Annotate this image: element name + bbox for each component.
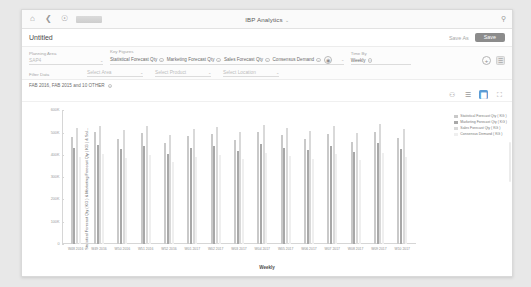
app-title-text: IBP Analytics xyxy=(245,16,282,23)
legend-label: Consensus Demand ( KG ) xyxy=(460,132,502,136)
remove-token-icon[interactable]: × xyxy=(159,58,164,63)
table-view-icon[interactable]: ☰ xyxy=(463,90,472,99)
scrollbar[interactable] xyxy=(509,142,511,182)
remove-token-icon[interactable]: × xyxy=(216,58,221,63)
key-figure-token[interactable]: Sales Forecast Qty× xyxy=(224,57,270,62)
key-figure-token[interactable]: Statistical Forecast Qty× xyxy=(110,57,164,62)
bar[interactable] xyxy=(172,162,174,244)
bar-group: W10 2017 xyxy=(391,110,414,244)
bar-chart-view-icon[interactable]: ▆ xyxy=(479,90,488,99)
planning-area-filter: Planning Area SAP4 ⌄ xyxy=(29,52,103,66)
planning-area-select[interactable]: SAP4 ⌄ xyxy=(29,57,103,65)
settings-gear-icon[interactable]: ◉ xyxy=(324,56,332,64)
chevron-down-icon: ⌄ xyxy=(202,70,211,75)
legend-item[interactable]: Marketing Forecast Qty ( KG ) xyxy=(454,120,507,124)
bar[interactable] xyxy=(382,153,384,244)
home-icon[interactable]: ⌂ xyxy=(28,15,37,24)
x-axis-tick: W10 2017 xyxy=(395,247,410,251)
bar[interactable] xyxy=(102,154,104,244)
y-axis-tick: 100K xyxy=(51,220,62,224)
legend-swatch xyxy=(454,121,458,125)
x-axis-tick: W03 2017 xyxy=(231,247,246,251)
y-axis-tick: 200K xyxy=(51,197,62,201)
x-axis-tick: W50 2016 xyxy=(115,247,130,251)
location-value: Select Location xyxy=(223,70,256,75)
save-button[interactable]: Save xyxy=(475,33,505,42)
legend-item[interactable]: Statistical Forecast Qty ( KG ) xyxy=(454,114,507,118)
planning-area-label: Planning Area xyxy=(29,52,103,57)
bar-group: W49 2016 xyxy=(87,110,110,244)
x-axis-tick: W48 2016 xyxy=(68,247,83,251)
bar-group: W51 2016 xyxy=(134,110,157,244)
remove-token-icon[interactable]: × xyxy=(316,58,321,63)
chevron-down-icon: ⌄ xyxy=(270,70,279,75)
filter-bar-actions: + ☰ xyxy=(482,56,505,65)
filter-icon[interactable]: ☰ xyxy=(496,56,505,65)
remove-token-icon[interactable]: × xyxy=(368,58,373,63)
bar-group: W48 2016 xyxy=(64,110,87,244)
legend-item[interactable]: Consensus Demand ( KG ) xyxy=(454,132,507,136)
key-figure-token[interactable]: Consensus Demand× xyxy=(273,57,321,62)
bar-group: W52 2016 xyxy=(157,110,180,244)
remove-token-icon[interactable]: × xyxy=(265,58,270,63)
add-filter-icon[interactable]: + xyxy=(482,56,491,65)
y-axis-tick: 300K xyxy=(51,175,62,179)
x-axis-label: Weekly xyxy=(22,265,512,270)
legend-swatch xyxy=(454,133,458,137)
legend-swatch xyxy=(454,127,458,131)
bar-groups: W48 2016W49 2016W50 2016W51 2016W52 2016… xyxy=(64,110,414,244)
x-axis-tick: W02 2017 xyxy=(208,247,223,251)
time-by-tokens[interactable]: Weekly× xyxy=(351,57,411,65)
y-axis-tick: 400K xyxy=(51,153,62,157)
x-axis-tick: W52 2016 xyxy=(161,247,176,251)
y-axis-tick: 0 xyxy=(57,242,62,246)
chevron-down-icon: ⌄ xyxy=(134,70,143,75)
bar[interactable] xyxy=(405,157,407,244)
legend-label: Sales Forecast Qty ( KG ) xyxy=(460,126,500,130)
company-logo xyxy=(76,16,102,23)
bar[interactable] xyxy=(125,158,127,244)
history-icon[interactable]: ☉ xyxy=(60,15,69,24)
token-label: Marketing Forecast Qty xyxy=(167,57,215,62)
location-select[interactable]: Select Location ⌄ xyxy=(223,69,279,77)
bar-group: W07 2017 xyxy=(321,110,344,244)
legend-swatch xyxy=(454,115,458,119)
bar[interactable] xyxy=(312,159,314,244)
bar-group: W08 2017 xyxy=(344,110,367,244)
title-actions: Save As Save xyxy=(449,33,505,42)
bar[interactable] xyxy=(219,155,221,244)
legend-label: Statistical Forecast Qty ( KG ) xyxy=(460,114,506,118)
bar[interactable] xyxy=(265,153,267,244)
key-figures-tokens[interactable]: Statistical Forecast Qty× Marketing Fore… xyxy=(110,56,344,66)
area-select[interactable]: Select Area ⌄ xyxy=(87,69,143,77)
search-icon[interactable]: ⚲ xyxy=(501,15,506,23)
selection-chip[interactable]: × xyxy=(108,84,113,89)
fullscreen-icon[interactable]: ⛶ xyxy=(495,90,504,99)
bar[interactable] xyxy=(335,154,337,244)
filter-row-secondary: Filter Data Select Area ⌄ Select Product… xyxy=(29,69,505,77)
save-as-link[interactable]: Save As xyxy=(449,35,469,41)
bar[interactable] xyxy=(149,155,151,244)
time-by-token[interactable]: Weekly× xyxy=(351,58,372,63)
plot-area: W48 2016W49 2016W50 2016W51 2016W52 2016… xyxy=(62,110,416,244)
y-axis-tick: 600K xyxy=(51,108,62,112)
remove-chip-icon[interactable]: × xyxy=(108,84,113,89)
bar[interactable] xyxy=(79,157,81,244)
bar[interactable] xyxy=(195,157,197,244)
x-axis-tick: W01 2017 xyxy=(185,247,200,251)
bar-group: W50 2016 xyxy=(111,110,134,244)
bar-group: W03 2017 xyxy=(227,110,250,244)
product-select[interactable]: Select Product ⌄ xyxy=(155,69,211,77)
key-figures-label: Key Figures xyxy=(110,50,344,55)
back-icon[interactable]: ❮ xyxy=(44,15,53,24)
pin-icon[interactable]: ⚇ xyxy=(447,90,456,99)
x-axis-tick: W08 2017 xyxy=(348,247,363,251)
bar[interactable] xyxy=(359,160,361,244)
bar[interactable] xyxy=(242,159,244,244)
key-figure-token[interactable]: Marketing Forecast Qty× xyxy=(167,57,221,62)
x-axis-tick: W07 2017 xyxy=(325,247,340,251)
legend-label: Marketing Forecast Qty ( KG ) xyxy=(460,120,507,124)
bar[interactable] xyxy=(289,156,291,244)
x-axis-tick: W06 2017 xyxy=(301,247,316,251)
legend-item[interactable]: Sales Forecast Qty ( KG ) xyxy=(454,126,507,130)
